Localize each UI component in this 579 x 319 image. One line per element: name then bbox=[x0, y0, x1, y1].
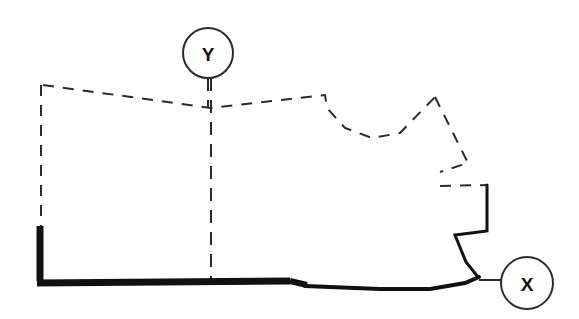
boundary-diagram-svg: Y X bbox=[0, 0, 579, 319]
marker-x[interactable]: X bbox=[501, 257, 553, 309]
bold-south-edge-left bbox=[37, 281, 290, 283]
canvas-background bbox=[0, 0, 579, 319]
marker-y-label: Y bbox=[202, 44, 215, 65]
diagram-canvas: Y X bbox=[0, 0, 579, 319]
marker-x-label: X bbox=[521, 274, 534, 295]
marker-y[interactable]: Y bbox=[183, 28, 233, 78]
